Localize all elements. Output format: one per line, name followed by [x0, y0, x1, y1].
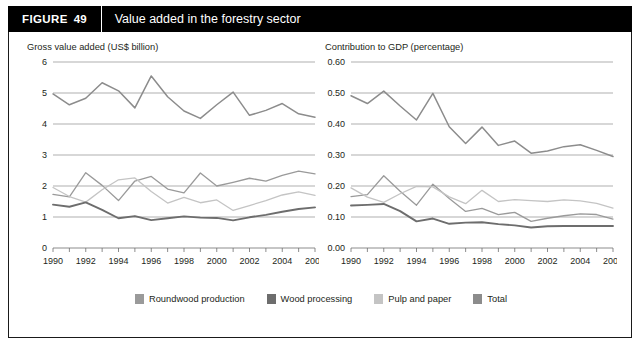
figure-tag-label: FIGURE	[8, 13, 68, 25]
chart-panel-contribution-to-gdp: Contribution to GDP (percentage) 0.000.1…	[317, 42, 617, 287]
y-axis-tick-label: 2	[42, 181, 47, 191]
chart-panel-gross-value-added: Gross value added (US$ billion) 01234561…	[19, 42, 319, 287]
legend-swatch-icon	[135, 294, 144, 304]
header-divider	[101, 6, 102, 32]
x-axis-tick-label: 1994	[108, 256, 128, 266]
data-series-line	[53, 202, 315, 220]
y-axis-tick-label: 0	[42, 243, 47, 253]
x-axis-tick-label: 1990	[43, 256, 63, 266]
legend-label: Pulp and paper	[388, 294, 451, 304]
x-axis-tick-label: 2004	[272, 256, 292, 266]
legend-item: Roundwood production	[135, 294, 245, 304]
x-axis-tick-label: 2000	[505, 256, 525, 266]
legend-swatch-icon	[267, 294, 276, 304]
y-axis-tick-label: 0.40	[327, 119, 345, 129]
x-axis-tick-label: 1996	[141, 256, 161, 266]
legend-item: Total	[473, 294, 507, 304]
figure-body: Gross value added (US$ billion) 01234561…	[8, 32, 632, 338]
x-axis-tick-label: 2000	[207, 256, 227, 266]
y-axis-tick-label: 6	[42, 57, 47, 67]
y-axis-tick-label: 3	[42, 150, 47, 160]
figure-number-label: 49	[68, 13, 87, 25]
y-axis-tick-label: 0.10	[327, 212, 345, 222]
y-axis-tick-label: 1	[42, 212, 47, 222]
x-axis-tick-label: 1998	[174, 256, 194, 266]
legend-label: Roundwood production	[149, 294, 245, 304]
data-series-line	[351, 204, 613, 228]
y-axis-tick-label: 4	[42, 119, 47, 129]
y-axis-tick-label: 0.30	[327, 150, 345, 160]
chart-axis-title-left: Gross value added (US$ billion)	[27, 42, 158, 52]
legend-swatch-icon	[374, 294, 383, 304]
legend-label: Total	[487, 294, 507, 304]
y-axis-tick-label: 0.00	[327, 243, 345, 253]
legend-item: Pulp and paper	[374, 294, 451, 304]
y-axis-tick-label: 5	[42, 88, 47, 98]
x-axis-tick-label: 1994	[406, 256, 426, 266]
x-axis-tick-label: 1992	[76, 256, 96, 266]
legend-swatch-icon	[473, 294, 482, 304]
x-axis-tick-label: 2002	[239, 256, 259, 266]
y-axis-tick-label: 0.50	[327, 88, 345, 98]
x-axis-tick-label: 1990	[341, 256, 361, 266]
legend-label: Wood processing	[281, 294, 353, 304]
y-axis-tick-label: 0.60	[327, 57, 345, 67]
x-axis-tick-label: 1992	[374, 256, 394, 266]
figure-header-bar: FIGURE 49 Value added in the forestry se…	[8, 6, 632, 32]
x-axis-tick-label: 1996	[439, 256, 459, 266]
chart-axis-title-right: Contribution to GDP (percentage)	[325, 42, 463, 52]
y-axis-tick-label: 0.20	[327, 181, 345, 191]
x-axis-tick-label: 1998	[472, 256, 492, 266]
legend-item: Wood processing	[267, 294, 353, 304]
line-chart-gross-value-added: 0123456199019921994199619982000200220042…	[19, 56, 319, 284]
x-axis-tick-label: 2006	[603, 256, 617, 266]
line-chart-contribution-to-gdp: 0.000.100.200.300.400.500.60199019921994…	[317, 56, 617, 284]
x-axis-tick-label: 2004	[570, 256, 590, 266]
figure-container: FIGURE 49 Value added in the forestry se…	[0, 0, 640, 346]
chart-legend: Roundwood productionWood processingPulp …	[9, 294, 633, 304]
data-series-line	[351, 186, 613, 208]
x-axis-tick-label: 2002	[537, 256, 557, 266]
data-series-line	[53, 76, 315, 118]
figure-title: Value added in the forestry sector	[115, 12, 301, 26]
